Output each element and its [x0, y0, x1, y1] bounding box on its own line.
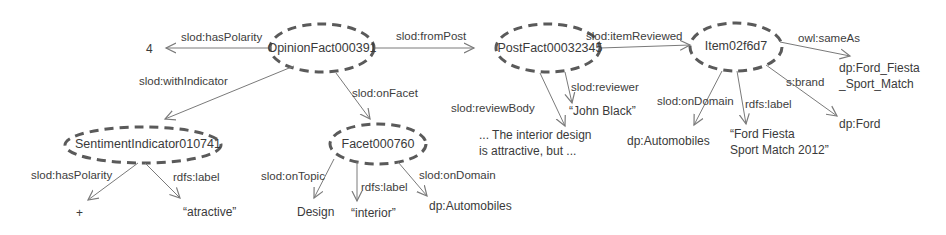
node-opinion-fact: OpinionFact000391 — [267, 41, 376, 56]
edge-label-review-body: slod:reviewBody — [451, 101, 535, 115]
rdf-graph-diagram: OpinionFact000391 PostFact00032345 Item0… — [0, 0, 946, 235]
literal-item-domain: dp:Automobiles — [627, 133, 710, 149]
edge-item-reviewed — [600, 45, 690, 48]
literal-facet-label: “interior” — [351, 205, 396, 221]
literal-facet-topic: Design — [297, 204, 334, 220]
literal-polarity-value: 4 — [146, 41, 153, 57]
edge-label-on-facet: slod:onFacet — [352, 86, 418, 100]
literal-item-label-line2: Sport Match 2012” — [730, 142, 829, 158]
edge-label-indicator-has-polarity: slod:hasPolarity — [31, 168, 112, 182]
literal-item-label-line1: “Ford Fiesta — [730, 126, 829, 142]
literal-review-body-line2: is attractive, but ... — [479, 143, 592, 159]
node-item: Item02f6d7 — [705, 39, 768, 54]
literal-same-as: dp:Ford_Fiesta _Sport_Match — [839, 60, 920, 92]
literal-same-as-line2: _Sport_Match — [839, 76, 920, 92]
edge-label-same-as: owl:sameAs — [798, 31, 860, 45]
edge-label-facet-on-topic: slod:onTopic — [261, 169, 325, 183]
literal-item-label: “Ford Fiesta Sport Match 2012” — [730, 126, 829, 158]
literal-reviewer: “John Black” — [569, 103, 636, 119]
literal-review-body: ... The interior design is attractive, b… — [479, 127, 592, 159]
literal-same-as-line1: dp:Ford_Fiesta — [839, 60, 920, 76]
edge-label-from-post: slod:fromPost — [396, 29, 466, 43]
edge-label-reviewer: slod:reviewer — [571, 80, 639, 94]
edge-label-has-polarity: slod:hasPolarity — [181, 30, 262, 44]
edge-review-body — [540, 73, 565, 126]
literal-review-body-line1: ... The interior design — [479, 127, 592, 143]
edge-label-with-indicator: slod:withIndicator — [139, 74, 228, 88]
edge-label-brand: s:brand — [786, 75, 824, 89]
literal-facet-domain: dp:Automobiles — [429, 198, 512, 214]
edge-label-facet-on-domain: slod:onDomain — [419, 168, 496, 182]
edge-label-indicator-rdfs-label: rdfs:label — [173, 170, 220, 184]
literal-indicator-label: “atractive” — [183, 204, 236, 220]
edge-label-item-on-domain: slod:onDomain — [657, 94, 734, 108]
edge-label-item-reviewed: slod:itemReviewed — [586, 29, 683, 43]
literal-indicator-polarity: + — [76, 205, 83, 221]
node-sentiment-indicator: SentimentIndicator010741 — [75, 137, 221, 152]
node-facet: Facet000760 — [342, 137, 415, 152]
edge-label-item-rdfs-label: rdfs:label — [745, 97, 792, 111]
literal-item-brand: dp:Ford — [839, 116, 880, 132]
edge-label-facet-rdfs-label: rdfs:label — [361, 180, 408, 194]
